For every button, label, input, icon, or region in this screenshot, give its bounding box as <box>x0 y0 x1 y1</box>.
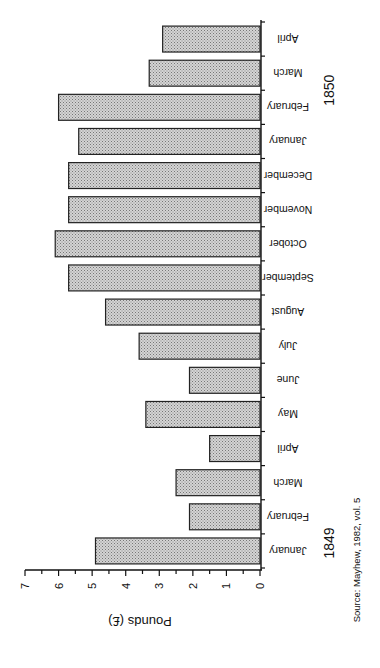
bar-7 <box>106 299 260 325</box>
x-tick-label: April <box>277 443 298 455</box>
x-tick-label: March <box>273 477 302 489</box>
year-labels: 18491850 <box>321 74 337 558</box>
y-tick-label: 0 <box>254 583 266 589</box>
x-tick-label: January <box>269 545 307 557</box>
bar-0 <box>96 538 261 564</box>
bar-9 <box>55 231 260 257</box>
bar-6 <box>139 333 260 359</box>
bar-2 <box>176 470 260 496</box>
value-axis: 01234567 <box>19 570 266 589</box>
y-tick-label: 4 <box>120 583 132 589</box>
x-tick-label: February <box>266 101 309 113</box>
x-tick-label: July <box>278 340 297 352</box>
x-tick-label: December <box>263 170 312 182</box>
y-tick-label: 6 <box>53 583 65 589</box>
y-tick-label: 3 <box>153 583 165 589</box>
bar-10 <box>69 197 260 223</box>
bar-11 <box>69 163 260 189</box>
bars-group <box>55 26 260 564</box>
x-tick-label: February <box>266 511 309 523</box>
y-tick-label: 5 <box>86 583 98 589</box>
y-tick-label: 1 <box>220 583 232 589</box>
x-tick-label: January <box>269 135 307 147</box>
x-tick-label: April <box>277 33 298 45</box>
x-tick-label: November <box>263 204 312 216</box>
bar-chart: 01234567 JanuaryFebruaryMarchAprilMayJun… <box>0 0 380 668</box>
bar-3 <box>210 436 260 462</box>
bar-13 <box>59 94 260 120</box>
x-tick-label: June <box>276 374 299 386</box>
bar-12 <box>79 128 260 154</box>
bar-14 <box>149 60 260 86</box>
x-tick-label: March <box>273 67 302 79</box>
y-tick-label: 7 <box>19 583 31 589</box>
bar-15 <box>163 26 260 52</box>
x-tick-label: September <box>262 272 314 284</box>
x-tick-label: October <box>269 238 307 250</box>
bar-4 <box>146 401 260 427</box>
y-tick-label: 2 <box>187 583 199 589</box>
year-label: 1849 <box>321 527 337 558</box>
y-axis-label: Pounds (£) <box>108 614 172 629</box>
year-label: 1850 <box>321 74 337 105</box>
x-tick-label: May <box>277 408 298 420</box>
category-axis: JanuaryFebruaryMarchAprilMayJuneJulyAugu… <box>261 20 314 570</box>
x-tick-label: August <box>272 306 305 318</box>
source-note: Source: Mayhew, 1982, vol. 5 <box>351 498 362 623</box>
bar-5 <box>190 367 261 393</box>
bar-8 <box>69 265 260 291</box>
bar-1 <box>190 504 261 530</box>
